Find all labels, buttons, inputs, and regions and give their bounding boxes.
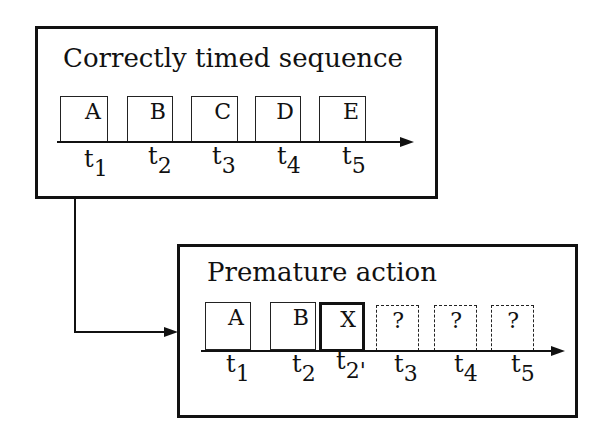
axis-arrow-icon — [400, 137, 414, 147]
cell-label: ? — [450, 310, 462, 332]
time-label: t5 — [342, 144, 366, 177]
cell-label: E — [343, 101, 359, 123]
correct-sequence-title: Correctly timed sequence — [63, 45, 403, 71]
unknown-event-cell: ? — [491, 305, 534, 351]
event-cell-a: A — [60, 96, 108, 143]
event-cell-a: A — [205, 302, 251, 350]
time-label: t3 — [394, 352, 418, 385]
cell-label: C — [214, 101, 231, 123]
premature-event-cell-x: X — [319, 302, 365, 352]
connector-arrow-icon — [164, 327, 178, 337]
cell-label: B — [150, 101, 166, 123]
time-label: t1 — [84, 147, 108, 180]
event-cell-e: E — [319, 96, 366, 143]
time-label: t1 — [226, 352, 250, 385]
time-label: t2' — [336, 349, 366, 382]
cell-label: A — [85, 101, 101, 123]
cell-label: A — [228, 307, 244, 329]
premature-action-title: Premature action — [207, 259, 437, 285]
event-cell-b: B — [270, 302, 316, 350]
time-axis — [201, 350, 553, 352]
time-label: t4 — [277, 144, 301, 177]
unknown-event-cell: ? — [376, 305, 419, 351]
time-label: t5 — [511, 352, 535, 385]
time-label: t2 — [148, 144, 172, 177]
unknown-event-cell: ? — [434, 305, 477, 351]
cell-label: ? — [507, 310, 519, 332]
event-cell-c: C — [191, 96, 238, 143]
time-label: t3 — [212, 144, 236, 177]
cell-label: ? — [392, 310, 404, 332]
event-cell-b: B — [127, 96, 173, 143]
cell-label: X — [340, 309, 356, 331]
cell-label: D — [276, 101, 294, 123]
time-label: t4 — [454, 352, 478, 385]
time-label: t2 — [292, 352, 316, 385]
axis-arrow-icon — [551, 346, 565, 356]
cell-label: B — [293, 307, 309, 329]
event-cell-d: D — [255, 96, 301, 143]
connector-horizontal — [74, 331, 166, 333]
connector-vertical — [74, 198, 76, 333]
